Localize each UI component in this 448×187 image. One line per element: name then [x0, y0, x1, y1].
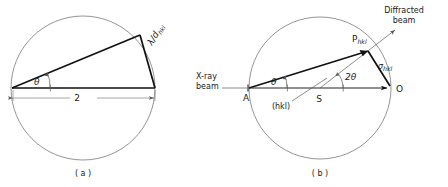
panel-b-point-o-label: O — [396, 84, 403, 94]
panel-b-theta-label: θ — [271, 77, 277, 87]
panel-a-chord-label: λ/dhkl — [145, 22, 167, 49]
panel-b-plane-label: (hkl) — [272, 102, 290, 111]
panel-a-theta-label: θ — [34, 77, 40, 87]
panel-b: X-ray beam θ 2θ A S O — [196, 6, 424, 178]
panel-b-incident-beam-label-line1: X-ray — [196, 72, 217, 81]
panel-b-point-p-label: Phkl — [352, 34, 367, 45]
panel-b-ray-a-to-p — [249, 51, 368, 88]
panel-b-point-s-label: S — [316, 94, 322, 104]
panel-a: θ 2 λ/dhkl ( a ) — [11, 16, 167, 178]
panel-b-sigma-label: σhkl — [378, 62, 393, 72]
diagram-svg: θ 2 λ/dhkl ( a ) X-ray beam — [0, 0, 448, 187]
panel-b-two-theta-label: 2θ — [345, 72, 357, 82]
panel-b-diffracted-beam-label-line2: beam — [393, 16, 416, 25]
panel-b-diffracted-beam-label-line1: Diffracted — [384, 6, 424, 15]
panel-b-caption: ( b ) — [312, 169, 328, 178]
figure-canvas: θ 2 λ/dhkl ( a ) X-ray beam — [0, 0, 448, 187]
panel-a-long-chord — [12, 35, 140, 88]
panel-b-incident-beam-label-line2: beam — [196, 82, 219, 91]
panel-b-point-a-label: A — [243, 93, 250, 103]
panel-a-diameter-label: 2 — [74, 93, 80, 103]
panel-a-chord-label-group: λ/dhkl — [145, 22, 167, 49]
panel-a-caption: ( a ) — [75, 169, 91, 178]
